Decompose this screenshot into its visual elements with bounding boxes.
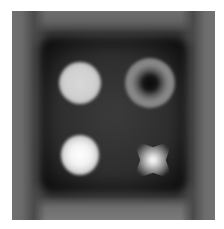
ring xyxy=(125,58,175,108)
phantom-frame xyxy=(12,11,215,220)
bright-disc xyxy=(61,135,99,175)
star-blob xyxy=(133,140,173,180)
image-canvas xyxy=(0,0,224,229)
star-blob-core xyxy=(135,142,171,178)
filled-disc xyxy=(59,62,101,104)
